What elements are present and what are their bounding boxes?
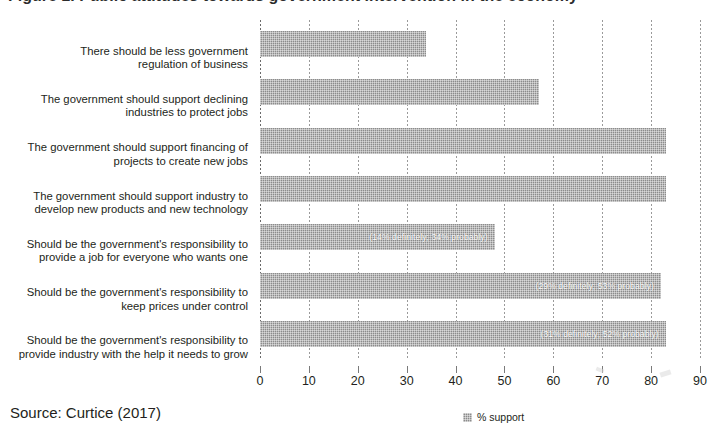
category-label-3: The government should support financing … xyxy=(0,131,248,179)
chart-legend: % support xyxy=(463,411,524,423)
bar-row xyxy=(260,68,700,116)
category-label-line: keep prices under control xyxy=(121,300,248,313)
figure-title-text: Figure 1. Public attitudes towards gover… xyxy=(8,0,578,5)
x-tick-label-90: 90 xyxy=(693,374,707,388)
x-tick-80 xyxy=(651,366,652,373)
bar-row xyxy=(260,20,700,68)
category-label-line: Should be the government's responsibilit… xyxy=(27,334,248,347)
category-label-line: The government should support industry t… xyxy=(33,190,248,203)
bar-2[interactable] xyxy=(260,79,539,105)
category-label-line: Should be the government's responsibilit… xyxy=(27,238,248,251)
category-label-line: projects to create new jobs xyxy=(114,155,248,168)
bar-rows: (14% definitely; 34% probably)(29% defin… xyxy=(260,20,700,358)
category-label-line: regulation of business xyxy=(138,58,248,71)
x-tick-label-60: 60 xyxy=(546,374,560,388)
source-note: Source: Curtice (2017) xyxy=(10,404,161,421)
x-tick-label-10: 10 xyxy=(302,374,316,388)
bar-3[interactable] xyxy=(260,128,666,154)
category-label-2: The government should support decliningi… xyxy=(0,82,248,130)
bar-row: (31% definitely; 52% probably) xyxy=(260,310,700,358)
category-label-line: Should be the government's responsibilit… xyxy=(27,286,248,299)
category-label-line: provide industry with the help it needs … xyxy=(19,348,248,361)
x-tick-label-70: 70 xyxy=(595,374,609,388)
gridline-90 xyxy=(700,20,701,358)
x-tick-0 xyxy=(260,366,261,373)
bar-annotation: (14% definitely; 34% probably) xyxy=(369,232,494,242)
category-label-line: develop new products and new technology xyxy=(34,203,248,216)
x-tick-90 xyxy=(700,366,701,373)
bar-annotation: (31% definitely; 52% probably) xyxy=(540,329,665,339)
category-label-4: The government should support industry t… xyxy=(0,179,248,227)
category-label-line: industries to protect jobs xyxy=(126,106,248,119)
category-label-line: provide a job for everyone who wants one xyxy=(39,251,248,264)
category-label-line: The government should support financing … xyxy=(28,141,248,154)
x-tick-label-40: 40 xyxy=(449,374,463,388)
bar-annotation: (29% definitely; 53% probably) xyxy=(536,281,661,291)
x-tick-10 xyxy=(309,366,310,373)
category-label-line: There should be less government xyxy=(80,45,248,58)
bar-6[interactable]: (29% definitely; 53% probably) xyxy=(260,273,661,299)
bar-row: (29% definitely; 53% probably) xyxy=(260,261,700,309)
x-tick-20 xyxy=(358,366,359,373)
legend-label-support: % support xyxy=(477,411,524,423)
x-tick-40 xyxy=(456,366,457,373)
x-tick-label-30: 30 xyxy=(400,374,414,388)
legend-swatch-support xyxy=(463,413,472,422)
bar-row xyxy=(260,117,700,165)
x-tick-label-20: 20 xyxy=(351,374,365,388)
category-label-5: Should be the government's responsibilit… xyxy=(0,227,248,275)
bar-chart: There should be less governmentregulatio… xyxy=(0,14,724,374)
bar-row: (14% definitely; 34% probably) xyxy=(260,213,700,261)
x-tick-30 xyxy=(407,366,408,373)
figure-title-clipped: Figure 1. Public attitudes towards gover… xyxy=(0,0,724,10)
bar-1[interactable] xyxy=(260,31,426,57)
category-label-line: The government should support declining xyxy=(41,93,248,106)
category-label-7: Should be the government's responsibilit… xyxy=(0,324,248,372)
category-label-list: There should be less governmentregulatio… xyxy=(0,34,254,372)
plot-area: (14% definitely; 34% probably)(29% defin… xyxy=(260,20,700,358)
category-label-1: There should be less governmentregulatio… xyxy=(0,34,248,82)
x-tick-label-80: 80 xyxy=(644,374,658,388)
x-tick-label-50: 50 xyxy=(497,374,511,388)
x-tick-label-0: 0 xyxy=(257,374,264,388)
bar-row xyxy=(260,165,700,213)
bar-4[interactable] xyxy=(260,176,666,202)
x-axis: 0102030405060708090 xyxy=(260,366,700,392)
bar-7[interactable]: (31% definitely; 52% probably) xyxy=(260,321,666,347)
x-tick-60 xyxy=(553,366,554,373)
x-tick-50 xyxy=(504,366,505,373)
category-label-6: Should be the government's responsibilit… xyxy=(0,275,248,323)
bar-5[interactable]: (14% definitely; 34% probably) xyxy=(260,224,495,250)
